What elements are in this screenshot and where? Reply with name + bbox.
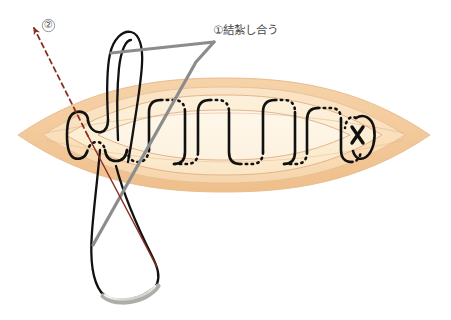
annotation-label-ligate: ①結紮し合う xyxy=(213,25,278,37)
diagram-canvas: ①結紮し合う ② xyxy=(0,0,451,320)
suture-diagram-figure xyxy=(0,0,451,320)
needle-instrument xyxy=(103,286,158,302)
wound-lens-group xyxy=(18,78,430,192)
annotation-label-direction: ② xyxy=(44,20,53,30)
